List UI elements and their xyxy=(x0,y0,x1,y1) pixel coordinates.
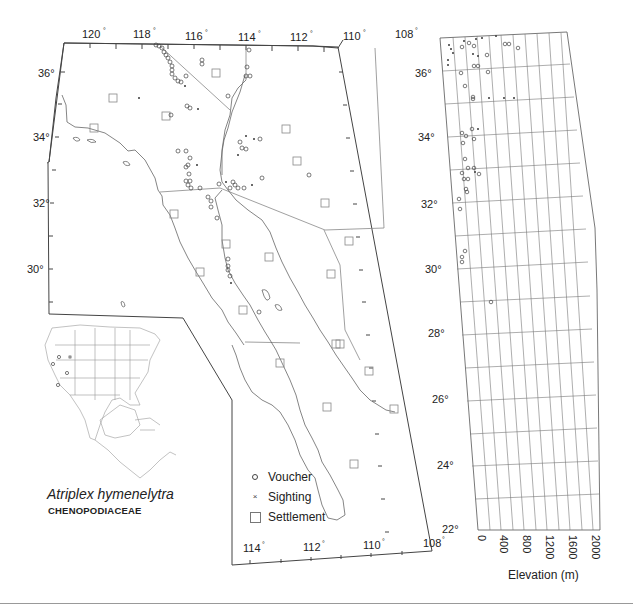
svg-text:°: ° xyxy=(415,27,418,34)
colorado-river xyxy=(222,80,246,175)
svg-text:30°: 30° xyxy=(425,263,442,275)
species-name: Atriplex hymenelytra xyxy=(47,486,174,502)
inset-north-america xyxy=(45,325,176,478)
svg-text:112: 112 xyxy=(290,31,308,43)
svg-text:°: ° xyxy=(262,541,265,548)
svg-text:°: ° xyxy=(103,27,106,34)
svg-text:°: ° xyxy=(322,540,325,547)
svg-text:110: 110 xyxy=(343,30,361,42)
svg-text:°: ° xyxy=(363,29,366,36)
top-longitude-labels: 120 ° 118 ° 116 ° 114 ° 112 ° 110 ° 108 … xyxy=(82,27,418,43)
cross-icon: × xyxy=(248,493,262,501)
svg-text:°: ° xyxy=(205,29,208,36)
svg-text:°: ° xyxy=(382,538,385,545)
svg-text:36°: 36° xyxy=(415,67,432,79)
elevation-voucher-points xyxy=(457,41,520,304)
coastlines xyxy=(62,75,395,520)
arizona-newmexico-border xyxy=(375,48,384,228)
main-map-frame xyxy=(47,40,343,163)
channel-island-1 xyxy=(73,137,80,141)
sighting-points xyxy=(138,85,255,284)
legend-label-settlement: Settlement xyxy=(268,510,325,524)
channel-island-3 xyxy=(123,161,130,165)
elevation-sighting-points xyxy=(447,35,515,173)
svg-text:28°: 28° xyxy=(428,327,445,339)
svg-text:36°: 36° xyxy=(38,67,55,79)
elevation-panel xyxy=(440,32,600,530)
svg-text:108: 108 xyxy=(395,28,413,40)
right-ticks xyxy=(339,72,389,532)
svg-text:24°: 24° xyxy=(437,459,454,471)
svg-text:32°: 32° xyxy=(33,197,50,209)
svg-text:116: 116 xyxy=(185,30,203,42)
square-icon xyxy=(248,512,262,523)
svg-text:°: ° xyxy=(153,27,156,34)
svg-text:22°: 22° xyxy=(442,523,459,535)
svg-text:114: 114 xyxy=(243,542,261,554)
elevation-grid xyxy=(443,33,599,530)
svg-text:30°: 30° xyxy=(27,263,44,275)
right-latitude-labels: 36° 34° 32° 30° 28° 26° 24° 22° xyxy=(415,67,459,535)
island-tiburon xyxy=(262,290,270,301)
svg-text:2000: 2000 xyxy=(590,535,602,559)
family-name: CHENOPODIACEAE xyxy=(48,505,142,516)
svg-text:1200: 1200 xyxy=(544,535,556,559)
channel-island-2 xyxy=(87,139,96,142)
svg-text:32°: 32° xyxy=(421,198,438,210)
island-gulf-2 xyxy=(275,305,282,311)
legend-voucher: Voucher xyxy=(248,470,312,484)
svg-text:108: 108 xyxy=(423,537,441,549)
svg-text:0: 0 xyxy=(476,535,488,541)
svg-text:110: 110 xyxy=(363,539,381,551)
svg-text:°: ° xyxy=(310,30,313,37)
bottom-divider xyxy=(0,603,633,604)
gulf-east-coast xyxy=(220,75,395,412)
bottom-longitude-labels: 114 ° 112 ° 110 ° 108 ° xyxy=(243,536,445,554)
legend-settlement: Settlement xyxy=(248,510,325,524)
svg-text:114: 114 xyxy=(238,31,256,43)
svg-text:118: 118 xyxy=(133,28,151,40)
california-nevada-border xyxy=(160,46,230,110)
svg-text:800: 800 xyxy=(521,535,533,553)
inset-map xyxy=(45,325,176,478)
svg-text:°: ° xyxy=(258,30,261,37)
political-borders xyxy=(160,46,384,360)
legend-label-sighting: Sighting xyxy=(268,490,311,504)
sonora-chihuahua-border xyxy=(324,230,360,360)
svg-text:34°: 34° xyxy=(33,131,50,143)
svg-text:34°: 34° xyxy=(418,131,435,143)
svg-text:400: 400 xyxy=(498,535,510,553)
legend-label-voucher: Voucher xyxy=(268,470,312,484)
svg-text:°: ° xyxy=(442,536,445,543)
circle-icon xyxy=(248,474,262,480)
svg-text:112: 112 xyxy=(303,541,321,553)
svg-text:26°: 26° xyxy=(432,393,449,405)
elevation-panel-frame xyxy=(440,32,600,530)
us-mexico-border xyxy=(160,188,384,230)
elevation-tick-labels: 0 400 800 1200 1600 2000 xyxy=(476,535,602,559)
svg-text:120: 120 xyxy=(82,28,100,40)
svg-text:1600: 1600 xyxy=(567,535,579,559)
left-ticks xyxy=(49,72,65,302)
baja-state-border xyxy=(245,342,300,343)
legend-sighting: × Sighting xyxy=(248,490,311,504)
settlements xyxy=(90,69,398,468)
island-guadalupe xyxy=(121,302,125,307)
left-latitude-labels: 36° 34° 32° 30° xyxy=(27,67,55,275)
elevation-axis-label: Elevation (m) xyxy=(508,568,579,582)
